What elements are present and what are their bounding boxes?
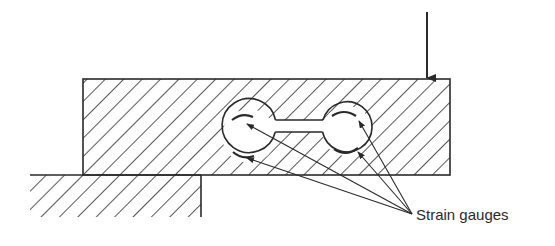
beam (83, 79, 450, 175)
support-block (30, 175, 201, 217)
strain-gauges-label: Strain gauges (416, 206, 509, 223)
